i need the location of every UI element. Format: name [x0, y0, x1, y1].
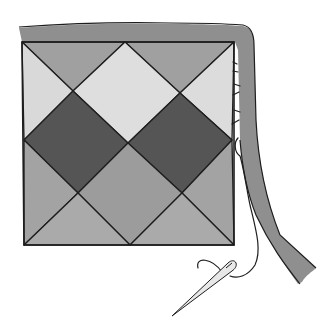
quilt-binding-illustration	[0, 0, 332, 335]
needle	[172, 261, 236, 316]
quilt-block	[22, 42, 234, 245]
